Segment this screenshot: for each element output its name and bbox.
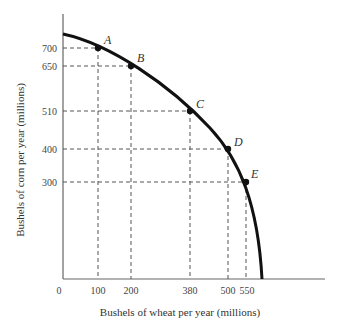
y-axis-title: Bushels of corn per year (millions) bbox=[14, 83, 27, 237]
point-c bbox=[187, 108, 193, 114]
ppf-chart: A B C D E 700 650 510 400 300 0 100 200 … bbox=[0, 0, 338, 324]
y-tick-700: 700 bbox=[42, 43, 57, 54]
x-tick-550: 550 bbox=[240, 285, 255, 296]
ppf-curve bbox=[63, 34, 262, 279]
y-tick-510: 510 bbox=[42, 106, 57, 117]
guide-lines bbox=[63, 48, 246, 279]
x-tick-500: 500 bbox=[221, 285, 236, 296]
point-label-c: C bbox=[196, 97, 205, 111]
y-tick-400: 400 bbox=[42, 144, 57, 155]
y-tick-650: 650 bbox=[42, 61, 57, 72]
data-points bbox=[95, 45, 249, 185]
y-tick-300: 300 bbox=[42, 177, 57, 188]
point-d bbox=[225, 146, 231, 152]
point-e bbox=[243, 179, 249, 185]
point-label-e: E bbox=[250, 167, 259, 181]
point-label-a: A bbox=[103, 33, 112, 47]
point-label-b: B bbox=[137, 51, 145, 65]
x-axis-title: Bushels of wheat per year (millions) bbox=[100, 306, 261, 319]
x-tick-200: 200 bbox=[124, 285, 139, 296]
x-tick-0: 0 bbox=[57, 285, 62, 296]
x-tick-100: 100 bbox=[91, 285, 106, 296]
point-label-d: D bbox=[233, 135, 243, 149]
x-tick-380: 380 bbox=[183, 285, 198, 296]
point-b bbox=[128, 63, 134, 69]
point-a bbox=[95, 45, 101, 51]
